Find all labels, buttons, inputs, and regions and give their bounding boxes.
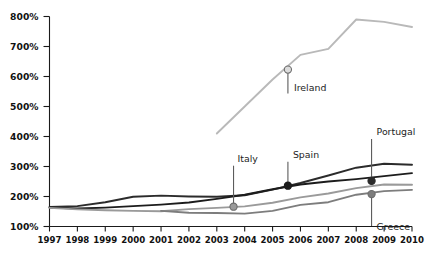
series-callouts: IrelandItalySpainPortugalGreece bbox=[230, 66, 415, 232]
x-tick-label: 1997 bbox=[38, 235, 62, 245]
callout-ireland: Ireland bbox=[284, 66, 326, 94]
x-tick-label: 2010 bbox=[400, 235, 424, 245]
callout-italy: Italy bbox=[230, 153, 258, 211]
y-tick-label: 800% bbox=[10, 11, 38, 22]
y-tick-marks bbox=[44, 17, 50, 227]
y-axis-group: 100%200%300%400%500%600%700%800% bbox=[10, 11, 49, 232]
y-tick-label: 100% bbox=[10, 221, 38, 232]
callout-marker-open-circle bbox=[284, 66, 291, 73]
x-tick-label: 1998 bbox=[65, 235, 89, 245]
y-tick-label: 500% bbox=[10, 101, 38, 112]
callout-label-text: Ireland bbox=[294, 82, 326, 93]
series-line-ireland bbox=[217, 20, 412, 134]
y-tick-label: 400% bbox=[10, 131, 38, 142]
series-lines bbox=[50, 20, 413, 214]
x-axis-group: 1997199819992000200120022003200420052006… bbox=[38, 227, 424, 245]
x-tick-label: 2003 bbox=[205, 235, 229, 245]
y-tick-labels: 100%200%300%400%500%600%700%800% bbox=[10, 11, 38, 232]
y-tick-label: 300% bbox=[10, 161, 38, 172]
callout-marker-filled-circle bbox=[284, 182, 291, 189]
x-tick-label: 2006 bbox=[289, 235, 313, 245]
x-tick-label: 2009 bbox=[372, 235, 396, 245]
callout-label-text: Italy bbox=[238, 153, 259, 164]
x-tick-label: 2005 bbox=[261, 235, 285, 245]
chart-canvas: 100%200%300%400%500%600%700%800% 1997199… bbox=[0, 0, 426, 255]
callout-greece: Greece bbox=[368, 191, 410, 233]
callout-label-text: Spain bbox=[293, 149, 319, 160]
x-tick-label: 2007 bbox=[316, 235, 340, 245]
y-tick-label: 700% bbox=[10, 41, 38, 52]
x-tick-marks bbox=[50, 227, 413, 232]
x-tick-label: 2002 bbox=[177, 235, 201, 245]
series-line-portugal bbox=[50, 164, 413, 207]
callout-marker-filled-circle bbox=[368, 177, 375, 184]
y-tick-label: 600% bbox=[10, 71, 38, 82]
x-tick-label: 2000 bbox=[121, 235, 145, 245]
line-chart: 100%200%300%400%500%600%700%800% 1997199… bbox=[0, 0, 426, 255]
callout-label-text: Greece bbox=[377, 221, 411, 232]
callout-marker-filled-circle bbox=[230, 203, 237, 210]
x-tick-label: 2008 bbox=[344, 235, 368, 245]
callout-marker-filled-circle bbox=[368, 191, 375, 198]
y-tick-label: 200% bbox=[10, 191, 38, 202]
callout-label-text: Portugal bbox=[377, 126, 416, 137]
x-tick-label: 2001 bbox=[149, 235, 173, 245]
x-tick-label: 2004 bbox=[233, 235, 257, 245]
x-tick-labels: 1997199819992000200120022003200420052006… bbox=[38, 235, 424, 245]
x-tick-label: 1999 bbox=[93, 235, 117, 245]
